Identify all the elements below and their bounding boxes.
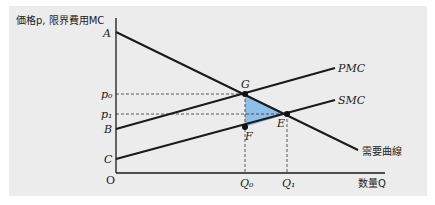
label-q0: Q₀	[240, 177, 254, 190]
label-p1: p₁	[101, 108, 112, 121]
origin-label: O	[106, 174, 115, 187]
label-f: F	[244, 130, 253, 143]
label-g: G	[241, 78, 250, 91]
label-a: A	[102, 27, 111, 40]
label-b: B	[103, 123, 112, 136]
x-axis-label: 数量Q	[358, 177, 386, 189]
label-q1: Q₁	[282, 177, 295, 190]
smc-curve	[116, 100, 335, 159]
label-c: C	[104, 153, 113, 166]
pmc-label: PMC	[337, 62, 366, 75]
economics-diagram: 価格p, 限界費用MC 数量Q O A p₀ p₁ B C G E F PMC …	[0, 0, 435, 205]
demand-curve	[116, 32, 358, 150]
point-g	[242, 91, 248, 97]
label-p0: p₀	[101, 88, 113, 101]
y-axis-label: 価格p, 限界費用MC	[16, 14, 104, 26]
demand-curve-label: 需要曲線	[362, 145, 402, 157]
label-e: E	[276, 117, 285, 130]
smc-label: SMC	[338, 94, 366, 107]
pmc-curve	[116, 68, 335, 129]
